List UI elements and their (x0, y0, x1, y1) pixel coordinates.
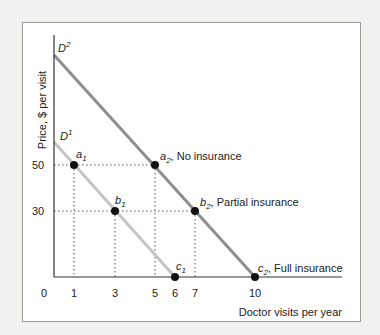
label-c1: c1 (176, 260, 186, 275)
label-b2: b2, Partial insurance (200, 196, 299, 211)
curve-label-d2: D2 (58, 40, 71, 54)
curve-label-d1: D1 (60, 128, 72, 142)
point-c2 (251, 273, 259, 281)
point-b2 (191, 207, 199, 215)
point-c1 (171, 273, 179, 281)
x-tick-7: 7 (192, 287, 198, 299)
x-tick-0: 0 (41, 287, 47, 299)
x-tick-3: 3 (112, 287, 118, 299)
point-a1 (70, 161, 78, 169)
y-axis-label: Price, $ per visit (36, 71, 48, 149)
x-tick-1: 1 (71, 287, 77, 299)
y-tick-50: 50 (32, 159, 44, 171)
label-b1: b1 (115, 194, 126, 209)
x-tick-10: 10 (249, 287, 261, 299)
point-b1 (111, 207, 119, 215)
x-axis-label: Doctor visits per year (239, 306, 343, 318)
x-tick-6: 6 (172, 287, 178, 299)
demand-chart: Price, $ per visit 50 30 0 1 3 5 6 7 10 … (0, 0, 380, 335)
label-a2: a2, No insurance (160, 150, 242, 165)
x-tick-5: 5 (152, 287, 158, 299)
label-a1: a1 (76, 148, 87, 163)
point-a2 (151, 161, 159, 169)
label-c2: c2, Full insurance (258, 262, 343, 277)
y-tick-30: 30 (32, 205, 44, 217)
